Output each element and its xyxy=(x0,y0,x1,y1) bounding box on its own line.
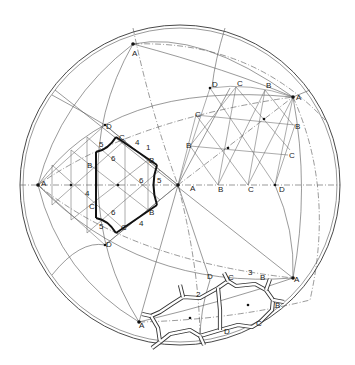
label-c: C xyxy=(248,185,254,194)
label-b: B xyxy=(275,301,280,310)
edge-number: 6 xyxy=(111,154,116,163)
label-c: C xyxy=(228,273,234,282)
edge-number: 1 xyxy=(146,143,151,152)
label-b: B xyxy=(87,161,92,170)
edge-number: 4 xyxy=(139,219,144,228)
label-c: C xyxy=(89,202,95,211)
label-b: B xyxy=(149,156,154,165)
label-c: C xyxy=(121,223,127,232)
edge-number: 4 xyxy=(135,138,140,147)
label-a: A xyxy=(190,184,196,193)
edge-number: 5 xyxy=(99,222,104,231)
hexagon-labels: D C B B C B C D xyxy=(87,122,154,249)
sphere-projection-figure: A A A A A A D C B C B B C B C D D C B B … xyxy=(0,0,355,365)
label-a: A xyxy=(296,93,302,102)
label-c: C xyxy=(195,110,201,119)
label-d: D xyxy=(106,122,112,131)
label-a: A xyxy=(294,275,300,284)
label-d: D xyxy=(279,185,285,194)
label-c: C xyxy=(289,151,295,160)
label-d: D xyxy=(106,240,112,249)
label-d: D xyxy=(224,327,230,336)
label-c: C xyxy=(237,79,243,88)
vertex-nodes xyxy=(36,42,295,324)
label-a: A xyxy=(41,179,47,188)
equator-labels: B C D xyxy=(218,185,285,194)
sphere-diagram: A A A A A A D C B C B B C B C D D C B B … xyxy=(0,0,355,365)
label-b: B xyxy=(260,273,265,282)
ring-molecule-model xyxy=(142,273,284,348)
label-a: A xyxy=(132,49,138,58)
label-c: C xyxy=(119,133,125,142)
edge-number: 2 xyxy=(196,290,201,299)
label-c: C xyxy=(256,319,262,328)
edge-number: 5 xyxy=(99,140,104,149)
label-a: A xyxy=(139,321,145,330)
edge-number: 6 xyxy=(139,176,144,185)
label-b: B xyxy=(295,122,300,131)
label-b: B xyxy=(218,185,223,194)
edge-number: 6 xyxy=(111,208,116,217)
edge-number: 5 xyxy=(157,176,162,185)
edge-number: 4 xyxy=(85,189,90,198)
label-d: D xyxy=(212,80,218,89)
edge-number: 3 xyxy=(248,268,253,277)
label-b: B xyxy=(186,141,191,150)
label-d: D xyxy=(207,272,213,281)
label-b: B xyxy=(149,208,154,217)
label-b: B xyxy=(266,81,271,90)
